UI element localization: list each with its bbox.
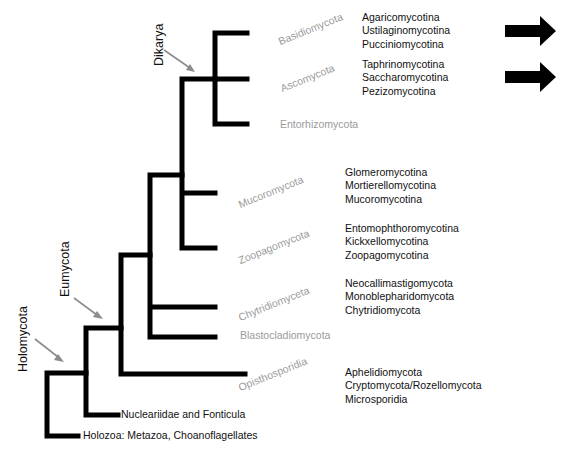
branch-eumycota [86, 328, 121, 415]
basidiomycota-right-arrow-icon [505, 16, 556, 46]
dikarya-pointer-arrow-icon [164, 50, 195, 72]
phylogeny-diagram: Dikarya Eumycota Holomycota Basidiomycot… [0, 0, 567, 450]
branch-opisthosporidia [121, 255, 245, 374]
subgroup-list-chytridiomyceta: Neocallimastigomycota Monoblepharidomyco… [345, 277, 454, 317]
leaf-label-nucleariidae: Nucleariidae and Fonticula [121, 408, 245, 420]
subgroup-item: Chytridiomycota [345, 304, 454, 317]
subgroup-item: Microsporidia [345, 393, 482, 406]
subgroup-item: Saccharomycotina [362, 71, 448, 84]
subgroup-item: Pucciniomycotina [362, 38, 450, 51]
subgroup-item: Cryptomycota/Rozellomycota [345, 379, 482, 392]
holomycota-pointer-arrow-icon [35, 339, 64, 362]
phylum-label-entorhizomycota: Entorhizomycota [280, 118, 358, 130]
subgroup-list-ascomycota: Taphrinomycotina Saccharomycotina Pezizo… [362, 58, 448, 98]
branch-dikarya-crown [215, 33, 247, 124]
clade-label-eumycota: Eumycota [58, 241, 72, 297]
branch-holomycota [47, 373, 86, 436]
subgroup-list-zoopagomycota: Entomophthoromycotina Kickxellomycotina … [345, 222, 459, 262]
subgroup-list-opisthosporidia: Aphelidiomycota Cryptomycota/Rozellomyco… [345, 366, 482, 406]
subgroup-item: Agaricomycotina [362, 11, 450, 24]
subgroup-list-basidiomycota: Agaricomycotina Ustilaginomycotina Pucci… [362, 11, 450, 51]
phylum-label-blastocladiomycota: Blastocladiomycota [240, 329, 330, 341]
subgroup-item: Neocallimastigomycota [345, 277, 454, 290]
subgroup-item: Entomophthoromycotina [345, 222, 459, 235]
subgroup-item: Taphrinomycotina [362, 58, 448, 71]
eumycota-pointer-arrow-icon [74, 298, 103, 319]
ascomycota-right-arrow-icon [505, 62, 556, 92]
branch-dikarya [182, 79, 215, 248]
subgroup-item: Ustilaginomycotina [362, 24, 450, 37]
clade-label-dikarya: Dikarya [152, 24, 166, 66]
subgroup-item: Aphelidiomycota [345, 366, 482, 379]
subgroup-item: Kickxellomycotina [345, 235, 459, 248]
subgroup-item: Mucoromycotina [345, 193, 436, 206]
subgroup-item: Glomeromycotina [345, 166, 436, 179]
subgroup-item: Pezizomycotina [362, 85, 448, 98]
subgroup-item: Monoblepharidomycota [345, 290, 454, 303]
subgroup-item: Mortierellomycotina [345, 179, 436, 192]
clade-label-holomycota: Holomycota [16, 306, 30, 372]
leaf-label-holozoa: Holozoa: Metazoa, Choanoflagellates [83, 429, 258, 441]
subgroup-item: Zoopagomycotina [345, 249, 459, 262]
subgroup-list-mucoromycota: Glomeromycotina Mortierellomycotina Muco… [345, 166, 436, 206]
